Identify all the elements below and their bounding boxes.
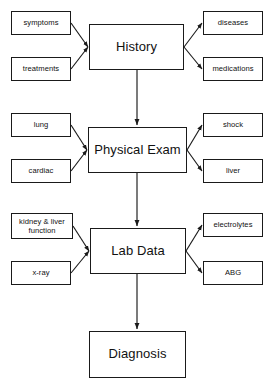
node-lab-data[interactable]: Lab Data	[90, 228, 186, 274]
node-abg[interactable]: ABG	[203, 261, 263, 285]
node-physical-exam[interactable]: Physical Exam	[88, 127, 187, 173]
node-diseases-label: diseases	[218, 19, 248, 28]
node-symptoms[interactable]: symptoms	[11, 11, 71, 35]
node-xray-label: x-ray	[32, 269, 49, 278]
edge-cardiac-physical-exam	[71, 150, 87, 171]
node-symptoms-label: symptoms	[24, 19, 59, 28]
node-kidney-liver-function-label: kidney & liver function	[12, 217, 72, 236]
clinical-flowchart: History Physical Exam Lab Data Diagnosis…	[0, 0, 274, 388]
node-kidney-liver-function[interactable]: kidney & liver function	[11, 213, 73, 239]
node-physical-exam-label: Physical Exam	[94, 143, 181, 158]
edge-physical-exam-shock	[187, 125, 202, 150]
edge-lung-physical-exam	[71, 125, 87, 150]
node-treatments[interactable]: treatments	[11, 57, 71, 81]
node-shock-label: shock	[223, 121, 243, 130]
node-cardiac[interactable]: cardiac	[11, 159, 71, 183]
edge-lab-data-electrolytes	[186, 225, 202, 251]
edge-kidney-liver-lab-data	[73, 226, 89, 251]
node-liver[interactable]: liver	[203, 159, 263, 183]
node-medications[interactable]: medications	[203, 57, 263, 81]
edge-physical-exam-liver	[187, 150, 202, 171]
edge-history-diseases	[184, 23, 202, 47]
node-lung[interactable]: lung	[11, 113, 71, 137]
node-lab-data-label: Lab Data	[111, 244, 165, 259]
node-lung-label: lung	[34, 121, 49, 130]
edge-lab-data-abg	[186, 251, 202, 273]
node-medications-label: medications	[212, 65, 253, 74]
node-diagnosis-label: Diagnosis	[109, 347, 167, 362]
node-diagnosis[interactable]: Diagnosis	[89, 331, 186, 378]
node-electrolytes-label: electrolytes	[213, 221, 252, 230]
node-xray[interactable]: x-ray	[11, 261, 71, 285]
node-liver-label: liver	[226, 167, 240, 176]
edge-history-medications	[184, 47, 202, 69]
edge-xray-lab-data	[71, 251, 89, 273]
node-abg-label: ABG	[225, 269, 241, 278]
edge-treatments-history	[71, 47, 88, 69]
node-history[interactable]: History	[89, 24, 184, 70]
edge-symptoms-history	[71, 23, 88, 47]
node-history-label: History	[116, 40, 157, 55]
node-cardiac-label: cardiac	[29, 167, 54, 176]
node-treatments-label: treatments	[23, 65, 59, 74]
node-shock[interactable]: shock	[203, 113, 263, 137]
node-diseases[interactable]: diseases	[203, 11, 263, 35]
node-electrolytes[interactable]: electrolytes	[203, 213, 263, 237]
